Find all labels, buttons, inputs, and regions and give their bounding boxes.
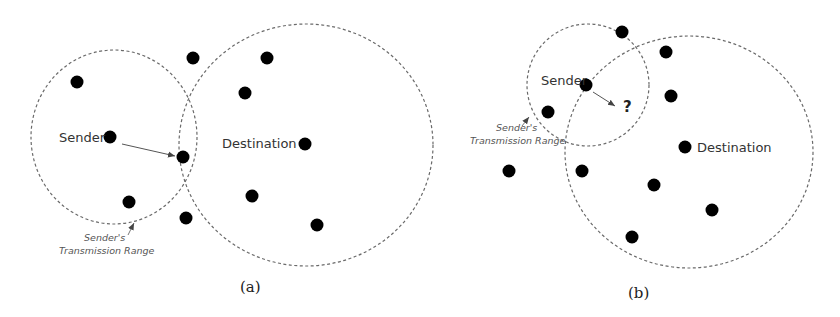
- forwarding-arrow: [593, 92, 615, 106]
- node: [71, 76, 84, 89]
- node: [123, 196, 136, 209]
- node: [660, 46, 673, 59]
- node: [648, 179, 661, 192]
- node: [239, 87, 252, 100]
- range-label-line2: Transmission Range: [470, 135, 566, 146]
- geographic-routing-diagram: Sender Destination Sender's Transmission…: [0, 0, 840, 317]
- sender-label: Sender: [541, 73, 588, 88]
- node: [542, 106, 555, 119]
- destination-label: Destination: [222, 136, 297, 151]
- destination-node: [679, 141, 692, 154]
- node: [187, 52, 200, 65]
- range-label-line2: Transmission Range: [59, 245, 155, 256]
- sender-node: [104, 131, 117, 144]
- range-label-line1: Sender's: [496, 122, 537, 133]
- node: [706, 204, 719, 217]
- node: [626, 231, 639, 244]
- node: [246, 190, 259, 203]
- forwarding-arrow: [122, 144, 175, 156]
- panel-a: Sender Destination Sender's Transmission…: [31, 24, 433, 296]
- range-label-line1: Sender's: [84, 232, 125, 243]
- node: [311, 219, 324, 232]
- destination-node: [299, 138, 312, 151]
- panel-caption-a: (a): [240, 278, 261, 296]
- next-hop-node: [177, 151, 190, 164]
- node: [180, 212, 193, 225]
- range-pointer-arrow: [128, 223, 134, 235]
- node: [503, 165, 516, 178]
- node: [616, 26, 629, 39]
- panel-caption-b: (b): [628, 284, 649, 302]
- node: [261, 52, 274, 65]
- destination-label: Destination: [697, 140, 772, 155]
- unknown-next-hop-mark: ?: [623, 98, 632, 116]
- node: [665, 90, 678, 103]
- node: [576, 165, 589, 178]
- panel-b: ? Sender Destination Sender's Transmissi…: [470, 24, 813, 302]
- sender-label: Sender: [59, 130, 106, 145]
